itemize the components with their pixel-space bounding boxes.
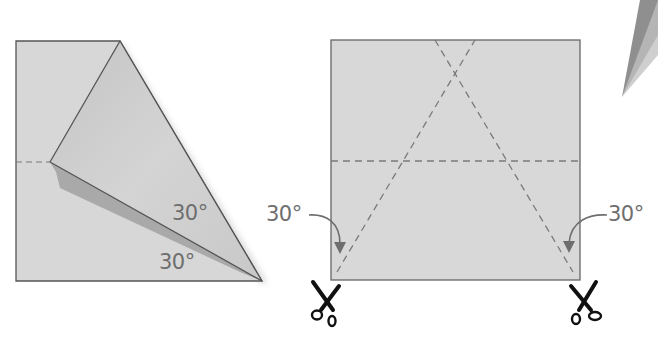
paper-airplane-partial (622, 0, 658, 97)
angle-label-square-right: 30° (608, 204, 644, 225)
angle-label-left-upper: 30° (172, 203, 208, 224)
angle-label-square-left: 30° (266, 204, 302, 225)
origami-diagram: 30° 30° 30° 30° (0, 0, 658, 344)
right-square-paper (331, 40, 580, 280)
paper-square (331, 40, 580, 280)
scissors-icon-right (571, 282, 601, 324)
left-folded-paper (16, 41, 266, 284)
scissors-icon-left (312, 282, 339, 326)
angle-label-left-lower: 30° (159, 252, 195, 273)
